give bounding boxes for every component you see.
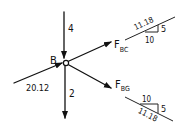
force-label-top: 4	[68, 23, 74, 34]
slope-label-horizontal: 10	[142, 95, 152, 104]
force-arrow-top: 4	[64, 12, 74, 58]
force-arrow-left: 20.12	[14, 63, 62, 93]
force-arrow-bottom: 2	[65, 66, 75, 118]
node-b: B	[50, 54, 69, 67]
up-right-arrow-icon	[14, 63, 62, 83]
force-arrow-fbc: FBC	[69, 38, 129, 61]
force-label-fbc: FBC	[114, 38, 129, 54]
slope-label-vertical: 5	[161, 24, 166, 34]
slope-triangle-bc: 11.18 5 10	[125, 15, 175, 45]
slope-label-hypotenuse: 11.18	[132, 15, 155, 32]
slope-label-horizontal: 10	[145, 36, 155, 45]
up-right-arrow-icon	[69, 42, 111, 61]
force-label-bottom: 2	[69, 88, 75, 99]
free-body-diagram: 4 B 2 20.12 FBC FBG 11.18 5 10 10 5	[0, 0, 179, 129]
down-right-arrow-icon	[69, 65, 111, 88]
force-label-left: 20.12	[26, 83, 49, 93]
slope-triangle-bg: 10 5 11.18	[125, 95, 173, 124]
slope-label-hypotenuse: 11.18	[136, 106, 159, 124]
force-arrow-fbg: FBG	[69, 65, 130, 93]
force-label-fbg: FBG	[115, 78, 130, 93]
node-circle-icon	[63, 60, 68, 65]
slope-label-vertical: 5	[161, 104, 166, 114]
